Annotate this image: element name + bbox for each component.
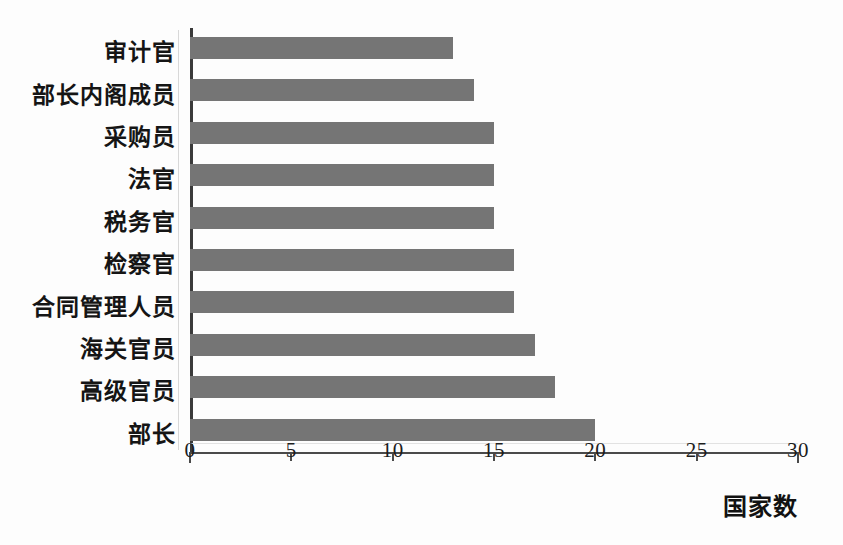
- y-axis-category-label: 审计官: [104, 33, 176, 67]
- y-axis-category-label: 部长内阁成员: [32, 76, 176, 110]
- plot-area: [190, 28, 798, 452]
- y-axis-category-label: 采购员: [104, 118, 176, 152]
- bar: [190, 291, 514, 313]
- bar: [190, 164, 494, 186]
- x-axis-tick-label: 5: [286, 438, 297, 463]
- bar: [190, 334, 535, 356]
- plot-frame-left-edge: [178, 30, 179, 450]
- x-axis-tick-label: 25: [686, 438, 708, 463]
- y-axis-category-label: 税务官: [104, 203, 176, 237]
- x-axis-tick-label: 30: [787, 438, 809, 463]
- bar: [190, 376, 555, 398]
- chart-page: 审计官部长内阁成员采购员法官税务官检察官合同管理人员海关官员高级官员部长 国家数…: [0, 0, 843, 545]
- x-axis-tick-label: 15: [483, 438, 505, 463]
- x-axis-title: 国家数: [626, 487, 798, 522]
- bar: [190, 122, 494, 144]
- x-axis-tick-label: 10: [382, 438, 404, 463]
- x-axis-tick-label: 20: [584, 438, 606, 463]
- y-axis-category-label: 合同管理人员: [32, 288, 176, 322]
- y-axis-category-label: 检察官: [104, 245, 176, 279]
- x-axis-tick-label: 0: [185, 438, 196, 463]
- y-axis-category-label: 海关官员: [80, 330, 176, 364]
- bar: [190, 79, 474, 101]
- bar: [190, 207, 494, 229]
- y-axis-category-label: 高级官员: [80, 372, 176, 406]
- bar: [190, 249, 514, 271]
- y-axis-category-label: 部长: [128, 415, 176, 449]
- bar: [190, 37, 453, 59]
- y-axis-category-label: 法官: [128, 160, 176, 194]
- y-axis-category-labels: 审计官部长内阁成员采购员法官税务官检察官合同管理人员海关官员高级官员部长: [0, 28, 176, 452]
